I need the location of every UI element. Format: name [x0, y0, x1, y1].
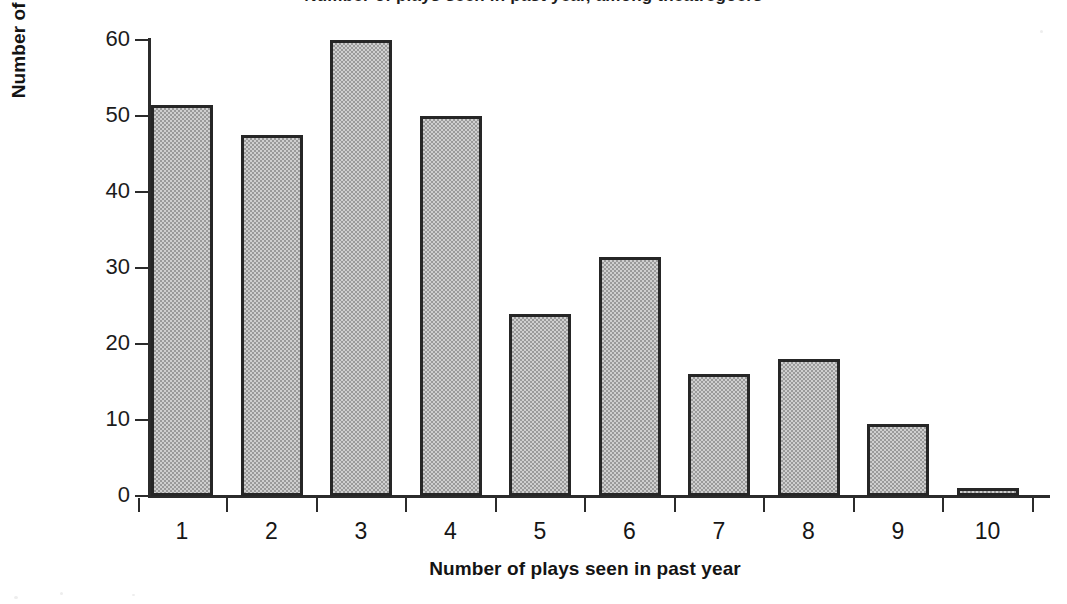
bar	[509, 314, 571, 496]
bar	[688, 374, 750, 496]
x-axis-tick-label: 10	[943, 518, 1033, 544]
bar-series	[148, 38, 1050, 498]
bar	[599, 257, 661, 496]
y-axis-tick-label: 30	[60, 256, 130, 278]
bar	[330, 40, 392, 496]
bar	[151, 105, 213, 496]
x-axis-tick-label: 9	[853, 518, 943, 544]
scan-speckle	[1040, 30, 1043, 33]
x-axis-tick	[942, 498, 944, 512]
x-axis-tick-label: 3	[316, 518, 406, 544]
x-axis-tick	[495, 498, 497, 512]
x-axis-title: Number of plays seen in past year	[120, 558, 1050, 580]
y-axis-tick	[135, 419, 148, 421]
x-axis-tick	[584, 498, 586, 512]
scan-speckle	[132, 594, 135, 596]
bar	[778, 359, 840, 496]
x-axis-tick	[763, 498, 765, 512]
y-axis-tick-label: 60	[60, 28, 130, 50]
x-axis-tick-label: 1	[137, 518, 227, 544]
bar	[241, 135, 303, 496]
x-axis-tick	[138, 498, 140, 512]
y-axis-tick	[135, 343, 148, 345]
x-axis-tick	[316, 498, 318, 512]
x-axis-tick-label: 5	[495, 518, 585, 544]
scan-speckle	[60, 592, 63, 595]
y-axis-tick-label: 40	[60, 180, 130, 202]
x-axis-tick	[853, 498, 855, 512]
y-axis-tick	[135, 267, 148, 269]
scan-speckle	[14, 596, 18, 599]
x-axis-tick-label: 2	[227, 518, 317, 544]
y-axis-tick	[135, 115, 148, 117]
y-axis-tick-label: 10	[60, 408, 130, 430]
y-axis-tick-label: 20	[60, 332, 130, 354]
y-axis-tick	[135, 39, 148, 41]
x-axis-tick-label: 8	[764, 518, 854, 544]
plot-area: 0102030405060 12345678910	[148, 38, 1050, 497]
y-axis-title: Number of respondents	[8, 0, 34, 162]
y-axis-tick-label: 50	[60, 104, 130, 126]
x-axis-tick	[405, 498, 407, 512]
chart-figure: Number of plays seen in past year, among…	[0, 0, 1067, 604]
y-axis-tick	[135, 191, 148, 193]
y-axis-tick-labels: 0102030405060	[60, 38, 130, 498]
y-axis-tick	[135, 495, 148, 497]
x-axis-tick	[1032, 498, 1034, 512]
x-axis-tick-label: 4	[406, 518, 496, 544]
x-axis-tick	[674, 498, 676, 512]
x-axis-tick-label: 6	[585, 518, 675, 544]
bar	[867, 424, 929, 496]
chart-title: Number of plays seen in past year, among…	[0, 0, 1067, 6]
x-axis-tick-label: 7	[674, 518, 764, 544]
bar	[957, 488, 1019, 496]
x-axis-tick	[226, 498, 228, 512]
bar	[420, 116, 482, 496]
y-axis-tick-label: 0	[60, 484, 130, 506]
